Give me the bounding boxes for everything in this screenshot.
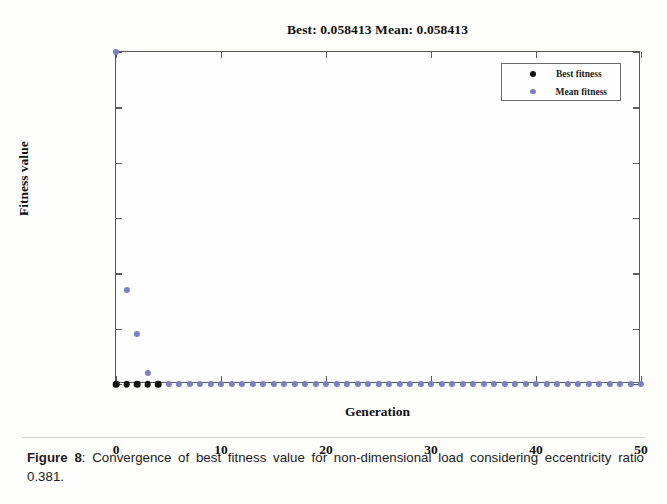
data-point-mean-fitness [407,381,413,387]
legend-marker-mean-fitness-icon [530,89,536,95]
data-point-mean-fitness [165,381,171,387]
x-tick-mark [536,52,537,58]
y-tick-mark [116,218,122,219]
legend-marker-best-fitness-icon [530,71,536,77]
data-point-mean-fitness [638,381,644,387]
data-point-mean-fitness [585,381,591,387]
x-tick-mark [431,52,432,58]
figure-container: Best: 0.058413 Mean: 0.058413 Fitness va… [0,0,667,504]
data-point-mean-fitness [417,381,423,387]
data-point-mean-fitness [365,381,371,387]
y-tick-mark [116,107,122,108]
caption-divider [22,437,646,438]
data-point-best-fitness [123,381,130,388]
data-point-mean-fitness [354,381,360,387]
x-tick-mark [326,52,327,58]
data-point-best-fitness [134,381,141,388]
data-point-mean-fitness [176,381,182,387]
data-point-best-fitness [113,381,120,388]
data-point-mean-fitness [522,381,528,387]
data-point-mean-fitness [239,381,245,387]
data-point-mean-fitness [207,381,213,387]
data-point-mean-fitness [291,381,297,387]
data-point-mean-fitness [260,381,266,387]
data-point-best-fitness [155,381,162,388]
x-axis-title: Generation [115,404,640,420]
plot-area: 0.05840.05840.05840.05840.05840.05840.05… [115,51,640,383]
data-point-mean-fitness [144,370,150,376]
y-tick-mark [633,329,639,330]
data-point-mean-fitness [344,381,350,387]
figure-caption-label: Figure 8 [27,450,82,465]
data-point-mean-fitness [270,381,276,387]
data-point-mean-fitness [123,287,129,293]
data-point-mean-fitness [533,381,539,387]
legend-label-mean-fitness: Mean fitness [556,87,607,97]
data-point-mean-fitness [375,381,381,387]
data-point-mean-fitness [554,381,560,387]
chart-legend: Best fitness Mean fitness [501,63,621,101]
data-point-mean-fitness [396,381,402,387]
plot-inner: 0.05840.05840.05840.05840.05840.05840.05… [116,52,639,382]
data-point-mean-fitness [459,381,465,387]
data-point-mean-fitness [627,381,633,387]
data-point-mean-fitness [617,381,623,387]
y-tick-mark [633,218,639,219]
data-point-mean-fitness [323,381,329,387]
data-point-mean-fitness [386,381,392,387]
data-point-mean-fitness [218,381,224,387]
data-point-mean-fitness [512,381,518,387]
data-point-mean-fitness [491,381,497,387]
data-point-best-fitness [144,381,151,388]
data-point-mean-fitness [470,381,476,387]
data-point-mean-fitness [438,381,444,387]
y-tick-mark [633,107,639,108]
chart-title: Best: 0.058413 Mean: 0.058413 [115,22,640,38]
data-point-mean-fitness [134,331,140,337]
data-point-mean-fitness [449,381,455,387]
legend-label-best-fitness: Best fitness [556,69,602,79]
data-point-mean-fitness [333,381,339,387]
y-tick-mark [633,52,639,53]
y-tick-mark [633,273,639,274]
data-point-mean-fitness [228,381,234,387]
y-tick-mark [116,329,122,330]
y-tick-mark [633,163,639,164]
y-tick-mark [116,163,122,164]
data-point-mean-fitness [564,381,570,387]
data-point-mean-fitness [596,381,602,387]
data-point-mean-fitness [197,381,203,387]
y-axis-title: Fitness value [16,141,32,216]
data-point-mean-fitness [249,381,255,387]
figure-caption: Figure 8: Convergence of best fitness va… [27,448,644,486]
data-point-mean-fitness [575,381,581,387]
data-point-mean-fitness [312,381,318,387]
figure-caption-text: Convergence of best fitness value for no… [27,450,644,484]
data-point-mean-fitness [480,381,486,387]
data-point-mean-fitness [186,381,192,387]
data-point-mean-fitness [428,381,434,387]
x-tick-mark [221,52,222,58]
x-tick-mark [641,52,642,58]
data-point-mean-fitness [501,381,507,387]
data-point-mean-fitness [606,381,612,387]
data-point-mean-fitness [543,381,549,387]
data-point-mean-fitness [113,49,119,55]
data-point-mean-fitness [281,381,287,387]
legend-item-best-fitness: Best fitness [502,64,620,83]
figure-caption-separator: : [82,450,92,465]
data-point-mean-fitness [302,381,308,387]
y-tick-mark [116,273,122,274]
legend-item-mean-fitness: Mean fitness [502,82,620,101]
